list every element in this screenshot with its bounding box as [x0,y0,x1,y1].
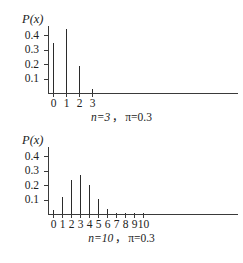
data-spike [89,185,90,214]
x-axis-tick: 9 [134,214,135,218]
y-axis-tick: 0.1 [44,79,49,80]
x-axis-tick-label: 3 [90,98,96,110]
y-axis-line [48,147,49,215]
chart-caption-n3: n=3，π=0.3 [0,112,243,124]
x-axis-tick: 2 [79,93,80,97]
x-axis-tick: 3 [92,93,93,97]
x-axis-tick-label: 7 [114,219,120,231]
x-axis-tick: 0 [53,93,54,97]
chart-caption-n10: n=10，π=0.3 [0,233,243,245]
y-axis-tick-label: 0.1 [25,73,39,85]
caption-pi-value: π=0.3 [128,232,155,244]
y-axis-tick-label: 0.2 [25,59,39,71]
caption-separator: ， [110,111,125,123]
y-axis-tick: 0.3 [44,50,49,51]
plot-area-n10: 0.10.20.30.4012345678910 [48,147,238,215]
x-axis-line [48,93,238,94]
y-axis-label: P(x) [22,134,44,147]
caption-n-value: n=10 [88,232,113,244]
plot-area-n3: 0.10.20.30.40123 [48,26,238,94]
y-axis-line [48,26,49,94]
x-axis-tick: 2 [71,214,72,218]
y-axis-tick: 0.2 [44,64,49,65]
x-axis-tick-label: 5 [96,219,102,231]
y-axis-tick-label: 0.3 [25,165,39,177]
x-axis-tick-label: 0 [51,219,57,231]
x-axis-tick-label: 8 [123,219,129,231]
x-axis-tick: 4 [89,214,90,218]
x-axis-tick-label: 2 [69,219,75,231]
x-axis-tick-label: 1 [60,219,66,231]
y-axis-tick-label: 0.4 [25,30,39,42]
data-spike [80,175,81,214]
y-axis-tick-label: 0.4 [25,151,39,163]
y-axis-tick: 0.4 [44,156,49,157]
x-axis-tick: 7 [116,214,117,218]
x-axis-tick: 10 [143,214,144,218]
x-axis-tick-label: 0 [51,98,57,110]
x-axis-tick-label: 4 [87,219,93,231]
data-spike [53,43,54,93]
data-spike [66,29,67,93]
caption-n-value: n=3 [91,111,110,123]
y-axis-tick: 0.4 [44,35,49,36]
chart-binomial-n10: P(x) 0.10.20.30.4012345678910 n=10，π=0.3 [0,131,243,263]
y-axis-tick-label: 0.1 [25,194,39,206]
y-axis-tick-label: 0.2 [25,180,39,192]
data-spike [62,197,63,215]
x-axis-tick: 1 [66,93,67,97]
x-axis-tick: 5 [98,214,99,218]
y-axis-tick: 0.2 [44,185,49,186]
y-axis-tick: 0.3 [44,171,49,172]
data-spike [79,66,80,93]
y-axis-tick-label: 0.3 [25,44,39,56]
y-axis-label: P(x) [22,13,44,26]
x-axis-tick: 6 [107,214,108,218]
x-axis-tick-label: 6 [105,219,111,231]
x-axis-tick-label: 2 [77,98,83,110]
x-axis-tick-label: 9 [132,219,138,231]
x-axis-tick: 3 [80,214,81,218]
data-spike [71,180,72,214]
y-axis-tick: 0.1 [44,200,49,201]
x-axis-tick-label: 1 [64,98,70,110]
x-axis-tick: 0 [53,214,54,218]
caption-separator: ， [113,232,128,244]
x-axis-tick-label: 3 [78,219,84,231]
caption-pi-value: π=0.3 [125,111,152,123]
x-axis-tick: 8 [125,214,126,218]
chart-binomial-n3: P(x) 0.10.20.30.40123 n=3，π=0.3 [0,0,243,131]
data-spike [98,199,99,214]
x-axis-tick: 1 [62,214,63,218]
x-axis-tick-label: 10 [138,219,150,231]
